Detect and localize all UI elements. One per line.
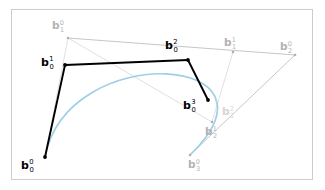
label-b2_1: b12 [205,126,217,137]
label-subscript: 2 [213,132,217,140]
label-subscript: 1 [232,43,236,51]
label-base: b [224,36,232,48]
label-b0_3: b30 [183,100,196,111]
point-marker-b2_0 [294,54,297,57]
label-subscript: 0 [30,166,34,174]
label-b2_0: b02 [280,41,292,52]
figure-canvas: b00b01b02b03b10b11b12b20b21b30 [0,0,325,190]
label-base: b [52,19,60,31]
point-marker-b1_1 [232,51,235,54]
label-subscript: 0 [174,46,178,54]
label-b0_2: b20 [165,40,178,51]
point-marker-b1_2 [215,100,217,102]
label-b0_0: b00 [21,160,34,171]
label-subscript: 2 [288,47,292,55]
label-b1_2: b21 [222,106,234,117]
point-marker-b2_1 [211,121,214,124]
point-marker-b1_0 [67,37,70,40]
label-b0_1: b10 [41,57,54,68]
point-marker-b0_1 [63,63,67,67]
label-base: b [21,159,29,172]
label-base: b [205,125,213,137]
label-base: b [41,56,49,69]
label-subscript: 1 [230,112,234,120]
label-base: b [222,105,230,117]
label-b1_0: b01 [52,20,64,31]
label-base: b [165,39,173,52]
label-base: b [280,40,288,52]
label-base: b [188,158,196,170]
label-base: b [183,99,191,112]
point-marker-b0_0 [43,155,47,159]
point-marker-b0_3 [206,98,210,102]
point-marker-b3_0 [189,154,192,157]
geometry-svg [0,0,325,190]
label-subscript: 0 [192,106,196,114]
label-subscript: 3 [196,165,200,173]
point-marker-b0_2 [186,58,190,62]
label-subscript: 1 [60,26,64,34]
label-b3_0: b03 [188,159,200,170]
label-subscript: 0 [50,63,54,71]
label-b1_1: b11 [224,37,236,48]
